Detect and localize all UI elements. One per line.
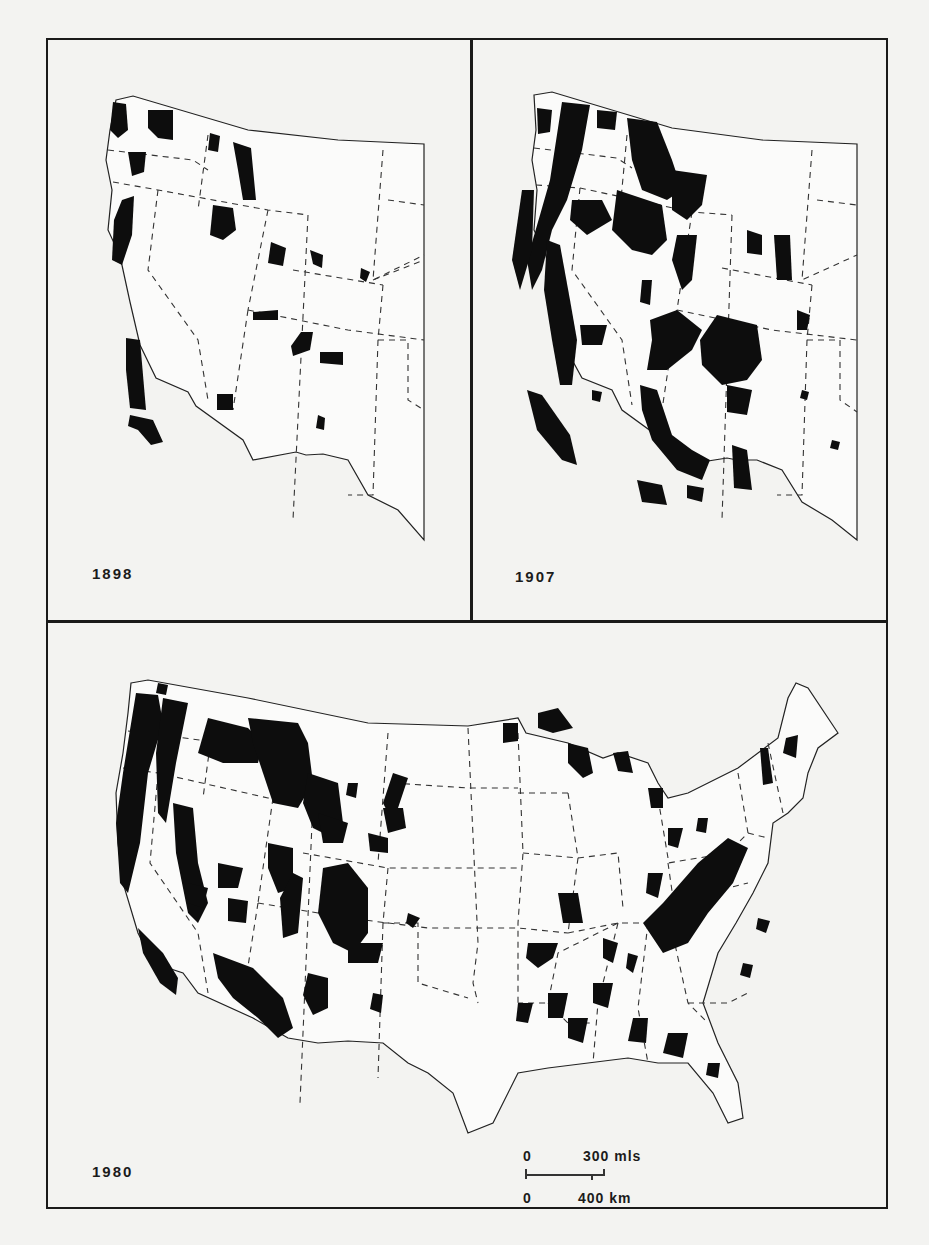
scale-miles-value: 300 mls [583,1148,641,1164]
scale-tick-start [525,1169,527,1179]
panel-divider-vertical [470,40,473,621]
year-label-1907: 1907 [515,568,556,585]
map-1898 [48,40,470,620]
year-label-1898: 1898 [92,565,133,582]
map-panel-1898: 1898 [48,40,470,620]
scale-tick-300mi [603,1169,605,1175]
scale-km-zero: 0 [523,1190,532,1206]
map-panel-1980: 1980 0 300 mls 0 400 km [48,623,888,1209]
scale-bar: 0 300 mls 0 400 km [523,1148,673,1208]
scale-km-value: 400 km [578,1190,631,1206]
map-1980 [48,623,888,1209]
map-panel-1907: 1907 [472,40,888,620]
scale-bar-line [525,1174,605,1176]
scale-miles-zero: 0 [523,1148,532,1164]
year-label-1980: 1980 [92,1163,133,1180]
map-figure-frame: 1898 [46,38,888,1209]
scale-tick-400km [591,1174,593,1180]
map-1907 [472,40,888,620]
